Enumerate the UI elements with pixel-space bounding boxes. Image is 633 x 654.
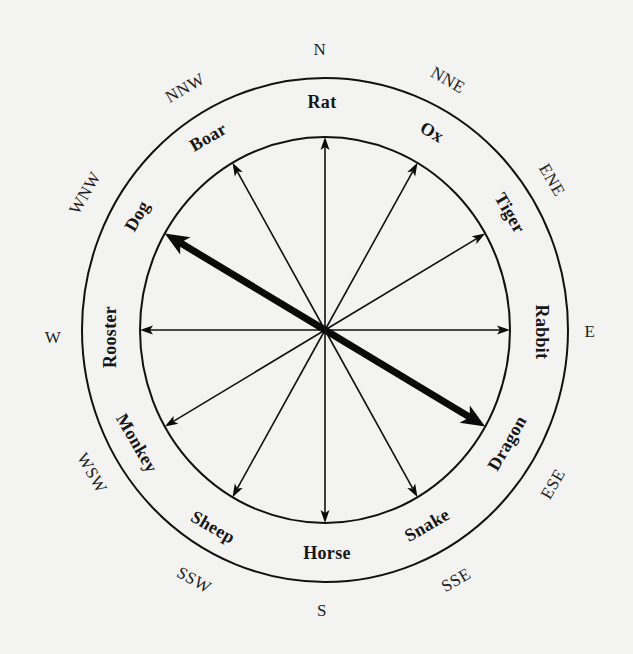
zodiac-label-rat: Rat bbox=[308, 92, 337, 112]
zodiac-compass-diagram: RatOxTigerRabbitDragonSnakeHorseSheepMon… bbox=[0, 0, 633, 654]
compass-label-w: W bbox=[45, 328, 62, 347]
zodiac-label-rooster: Rooster bbox=[100, 306, 120, 368]
zodiac-label-horse: Horse bbox=[303, 543, 350, 563]
compass-label-e: E bbox=[585, 322, 596, 341]
zodiac-label-rabbit: Rabbit bbox=[532, 305, 552, 360]
compass-label-s: S bbox=[317, 601, 327, 620]
compass-label-n: N bbox=[314, 40, 327, 59]
